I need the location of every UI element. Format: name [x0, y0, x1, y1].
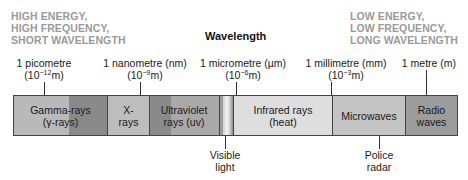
heading-line: LOW FREQUENCY,: [350, 22, 458, 34]
band-label: rays (uv): [161, 116, 208, 128]
band-visible-light: [219, 96, 233, 135]
diagram-title: Wavelength: [205, 30, 266, 42]
band-label: Radio: [417, 104, 447, 116]
heading-line: HIGH ENERGY,: [11, 10, 126, 22]
tick-base: (10: [127, 69, 142, 81]
band-label: Ultraviolet: [161, 104, 208, 116]
tick-micrometre: 1 micrometre (µm) (10−6m): [192, 57, 294, 81]
callout-label: Visible: [205, 149, 245, 161]
tick-millimetre: 1 millimetre (mm) (10−3m): [298, 57, 394, 81]
heading-line: SHORT WAVELENGTH: [11, 34, 126, 46]
band-label: Gamma-rays: [30, 104, 91, 116]
high-energy-heading: HIGH ENERGY, HIGH FREQUENCY, SHORT WAVEL…: [11, 10, 126, 46]
band-radio: Radio waves: [405, 96, 457, 135]
tick-name: 1 picometre: [14, 57, 74, 69]
band-label: waves: [417, 116, 447, 128]
band-label: X-: [119, 104, 139, 116]
tick-metre: 1 metre (m): [398, 57, 460, 69]
callout-label: light: [205, 161, 245, 173]
heading-line: LONG WAVELENGTH: [350, 34, 458, 46]
low-energy-heading: LOW ENERGY, LOW FREQUENCY, LONG WAVELENG…: [350, 10, 458, 46]
tick-exponent: (10−6m): [192, 69, 294, 81]
heading-line: HIGH FREQUENCY,: [11, 22, 126, 34]
tick-name: 1 micrometre (µm): [192, 57, 294, 69]
tick-exponent: (10−3m): [298, 69, 394, 81]
band-label: (heat): [254, 116, 313, 128]
tick-picometre: 1 picometre (10−12m): [14, 57, 74, 81]
band-label: rays: [119, 116, 139, 128]
band-gamma: Gamma-rays (γ-rays): [14, 96, 107, 135]
callout-police-radar: Police radar: [359, 149, 399, 173]
callout-line-radar: [379, 135, 380, 149]
tick-base: (10: [328, 69, 343, 81]
tick-unit: m): [51, 69, 63, 81]
tick-line-nanometre: [140, 82, 141, 95]
tick-base: (10: [24, 69, 39, 81]
band-ultraviolet: Ultraviolet rays (uv): [149, 96, 219, 135]
tick-nanometre: 1 nanometre (nm) (10−9m): [100, 57, 190, 81]
callout-label: Police: [359, 149, 399, 161]
tick-exp: −12: [40, 69, 52, 76]
band-infrared: Infrared rays (heat): [233, 96, 332, 135]
band-label: (γ-rays): [30, 116, 91, 128]
band-xray: X- rays: [107, 96, 149, 135]
callout-visible-light: Visible light: [205, 149, 245, 173]
band-label: Infrared rays: [254, 104, 313, 116]
callout-line-visible: [225, 135, 226, 149]
tick-exponent: (10−9m): [100, 69, 190, 81]
tick-line-picometre: [44, 82, 45, 95]
tick-name: 1 nanometre (nm): [100, 57, 190, 69]
tick-unit: m): [248, 69, 260, 81]
tick-name: 1 millimetre (mm): [298, 57, 394, 69]
tick-unit: m): [351, 69, 363, 81]
spectrum-bar: Gamma-rays (γ-rays) X- rays Ultraviolet …: [13, 95, 458, 136]
tick-exponent: (10−12m): [14, 69, 74, 81]
callout-label: radar: [359, 161, 399, 173]
tick-name: 1 metre (m): [398, 57, 460, 69]
tick-line-millimetre: [331, 82, 332, 95]
tick-base: (10: [225, 69, 240, 81]
tick-unit: m): [150, 69, 162, 81]
heading-line: LOW ENERGY,: [350, 10, 458, 22]
band-microwaves: Microwaves: [332, 96, 405, 135]
tick-line-micrometre: [236, 82, 237, 95]
tick-line-metre: [426, 70, 427, 95]
band-label: Microwaves: [341, 110, 396, 122]
